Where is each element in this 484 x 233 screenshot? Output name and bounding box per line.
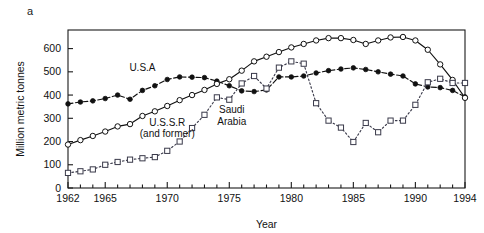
data-point-marker [301, 74, 306, 79]
data-point-marker [400, 118, 405, 123]
data-point-marker [277, 75, 282, 80]
data-point-marker [326, 68, 331, 73]
data-point-marker [152, 109, 157, 114]
data-point-marker [153, 83, 158, 88]
data-point-marker [78, 137, 83, 142]
data-point-marker [462, 80, 467, 85]
x-axis-ticks [68, 182, 465, 188]
data-point-marker [351, 139, 356, 144]
y-tick-label: 200 [43, 135, 61, 147]
data-point-marker [251, 73, 256, 78]
data-point-marker [239, 81, 244, 86]
y-axis-title: Million metric tonnes [14, 61, 26, 157]
data-point-marker [239, 68, 244, 73]
data-point-marker [202, 87, 207, 92]
data-point-marker [202, 75, 207, 80]
data-point-marker [462, 95, 467, 100]
data-point-marker [239, 89, 244, 94]
annotation-saudi-arabia-line2: Arabia [217, 116, 246, 127]
y-tick-label: 400 [43, 89, 61, 101]
annotation-u-s-s-r-and-former-line2: (and former) [140, 128, 195, 139]
data-point-marker [251, 59, 256, 64]
data-point-marker [438, 76, 443, 81]
data-point-marker [140, 156, 145, 161]
data-point-marker [103, 162, 108, 167]
x-tick-label: 1980 [280, 192, 304, 204]
data-point-marker [339, 67, 344, 72]
y-tick-label: 300 [43, 112, 61, 124]
figure-panel-a: a 0100200300400500600 196219651970197519… [0, 0, 484, 233]
data-point-marker [190, 75, 195, 80]
x-tick-label: 1975 [218, 192, 242, 204]
data-point-marker [289, 45, 294, 50]
data-point-marker [90, 133, 95, 138]
data-point-marker [227, 97, 232, 102]
data-point-marker [351, 66, 356, 71]
data-point-marker [78, 169, 83, 174]
data-point-marker [450, 88, 455, 93]
data-point-marker [400, 34, 405, 39]
data-point-marker [65, 142, 70, 147]
data-point-marker [91, 99, 96, 104]
data-point-marker [276, 65, 281, 70]
data-point-marker [103, 129, 108, 134]
data-point-marker [165, 77, 170, 82]
data-point-marker [202, 112, 207, 117]
x-tick-label: 1994 [453, 192, 477, 204]
y-axis-ticks [68, 49, 73, 188]
y-tick-label: 100 [43, 158, 61, 170]
data-point-marker [264, 54, 269, 59]
data-point-marker [128, 97, 133, 102]
data-point-marker [413, 102, 418, 107]
data-point-marker [301, 41, 306, 46]
data-point-marker [413, 38, 418, 43]
data-point-marker [165, 103, 170, 108]
data-point-marker [152, 154, 157, 159]
data-point-marker [326, 118, 331, 123]
data-point-marker [438, 85, 443, 90]
data-point-marker [388, 118, 393, 123]
data-point-marker [401, 74, 406, 79]
y-tick-label: 600 [43, 42, 61, 54]
data-series-layer [65, 34, 467, 175]
data-point-marker [115, 124, 120, 129]
data-point-marker [127, 121, 132, 126]
x-axis-title: Year [256, 218, 278, 230]
data-point-marker [66, 102, 71, 107]
data-point-marker [264, 86, 269, 91]
data-point-marker [450, 80, 455, 85]
data-point-marker [388, 72, 393, 77]
data-point-marker [425, 47, 430, 52]
data-point-marker [252, 89, 257, 94]
data-point-marker [338, 125, 343, 130]
annotation-u-s-s-r-and-former-line1: U.S.S.R [149, 117, 185, 128]
data-point-marker [140, 113, 145, 118]
data-point-marker [314, 101, 319, 106]
data-point-marker [363, 120, 368, 125]
data-point-marker [115, 93, 120, 98]
data-point-marker [127, 157, 132, 162]
data-point-marker [375, 38, 380, 43]
data-point-marker [289, 75, 294, 80]
data-point-marker [214, 81, 219, 86]
data-point-marker [214, 95, 219, 100]
data-point-marker [376, 130, 381, 135]
data-point-marker [413, 82, 418, 87]
annotation-u-s-a: U.S.A [129, 62, 155, 73]
data-point-marker [140, 88, 145, 93]
data-point-marker [177, 97, 182, 102]
data-point-marker [425, 80, 430, 85]
data-point-marker [189, 92, 194, 97]
x-tick-label: 1990 [404, 192, 428, 204]
data-point-marker [301, 61, 306, 66]
data-point-marker [338, 35, 343, 40]
series-saudi-arabia [65, 59, 467, 176]
data-point-marker [363, 41, 368, 46]
y-tick-label: 500 [43, 65, 61, 77]
annotation-saudi-arabia-line1: Saudi [219, 104, 245, 115]
x-tick-label: 1970 [156, 192, 180, 204]
data-point-marker [227, 77, 232, 82]
data-point-marker [78, 100, 83, 105]
data-point-marker [177, 75, 182, 80]
x-axis-tick-labels: 19621965197019751980198519901994 [56, 192, 477, 204]
